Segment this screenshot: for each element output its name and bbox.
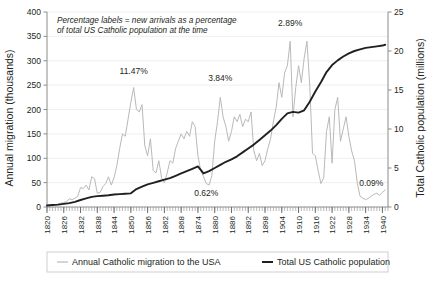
percentage-label: 2.89% [278, 18, 303, 28]
y-axis-left-tick-label: 300 [27, 56, 41, 66]
percentage-label: 11.47% [120, 66, 149, 76]
y-axis-right-tick-label: 25 [394, 7, 404, 17]
x-axis-tick-label: 1820 [43, 215, 52, 233]
x-axis-tick-label: 1910 [295, 215, 304, 233]
x-axis-tick-label: 1874 [194, 215, 203, 233]
y-axis-right-title: Total Catholic population (millions) [414, 38, 426, 197]
x-axis-tick-label: 1916 [312, 215, 321, 233]
x-axis-tick-label: 1832 [77, 215, 86, 233]
y-axis-right-tick-label: 15 [394, 85, 404, 95]
x-axis-tick-label: 1898 [261, 215, 270, 233]
annotation-line-2: of total US Catholic population at the t… [57, 26, 208, 35]
x-axis-tick-label: 1838 [94, 215, 103, 233]
chart-legend: Annual Catholic migration to the USATota… [47, 252, 390, 272]
annotation-line-1: Percentage labels = new arrivals as a pe… [57, 16, 237, 25]
y-axis-left-tick-label: 350 [27, 31, 41, 41]
x-axis-tick-label: 1892 [244, 215, 253, 233]
y-axis-left-tick-label: 150 [27, 129, 41, 139]
x-axis-tick-label: 1850 [127, 215, 136, 233]
chart-background [0, 0, 432, 285]
x-axis-tick-label: 1886 [228, 215, 237, 233]
x-axis-tick-label: 1928 [345, 215, 354, 233]
percentage-label: 0.62% [194, 188, 219, 198]
y-axis-left-tick-label: 400 [27, 7, 41, 17]
y-axis-right-tick-label: 10 [394, 124, 404, 134]
y-axis-left-title: Annual migration (thousands) [3, 49, 15, 186]
y-axis-right-tick-label: 5 [394, 163, 399, 173]
x-axis-tick-label: 1856 [144, 215, 153, 233]
y-axis-left-tick-label: 200 [27, 105, 41, 115]
percentage-label: 0.09% [359, 178, 384, 188]
x-axis-tick-label: 1934 [362, 215, 371, 233]
x-axis-tick-label: 1880 [211, 215, 220, 233]
y-axis-right-tick-label: 20 [394, 46, 404, 56]
y-axis-left-tick-label: 100 [27, 153, 41, 163]
x-axis-tick-label: 1922 [328, 215, 337, 233]
legend-label: Annual Catholic migration to the USA [72, 257, 221, 267]
chart-container: 050100150200250300350400 0510152025 1820… [0, 0, 432, 285]
x-axis-tick-label: 1940 [379, 215, 388, 233]
y-axis-left-tick-label: 50 [32, 178, 42, 188]
y-axis-left-tick-label: 0 [36, 202, 41, 212]
migration-population-chart: 050100150200250300350400 0510152025 1820… [0, 0, 432, 285]
x-axis-tick-label: 1904 [278, 215, 287, 233]
x-axis-tick-label: 1862 [161, 215, 170, 233]
y-axis-right-tick-label: 0 [394, 202, 399, 212]
percentage-label: 3.84% [208, 73, 233, 83]
legend-label: Total US Catholic population [277, 257, 390, 267]
x-axis-tick-label: 1844 [110, 215, 119, 233]
y-axis-left-tick-label: 250 [27, 80, 41, 90]
x-axis-tick-label: 1868 [177, 215, 186, 233]
x-axis-tick-label: 1826 [60, 215, 69, 233]
